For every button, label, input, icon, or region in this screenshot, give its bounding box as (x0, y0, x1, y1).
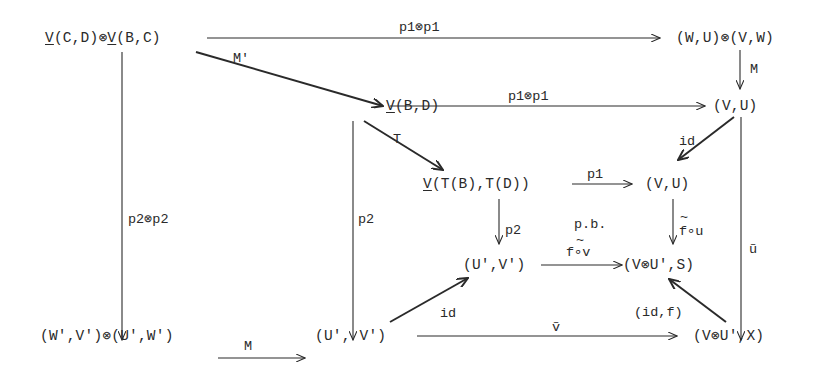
label-fu: f∘u (679, 224, 703, 239)
node-vu-top: (V,U) (713, 98, 758, 114)
node-vup-x: (V⊗U',X) (693, 328, 764, 344)
label-mid-p1p1: p1⊗p1 (508, 89, 549, 104)
node-upvp-bottom: (U', V') (315, 328, 386, 344)
arrow-id-bottom (390, 278, 468, 322)
label-pb: p.b. (574, 217, 606, 232)
node-vbd: V(B,D) (386, 98, 439, 114)
label-p1: p1 (587, 167, 603, 182)
arrow-T (364, 121, 443, 170)
label-id-f: (id,f) (634, 305, 683, 320)
label-M-right: M (750, 62, 758, 77)
label-M-bottom: M (244, 339, 252, 354)
label-top-p1p1: p1⊗p1 (399, 20, 440, 35)
commutative-diagram: V(C,D)⊗V(B,C) (W,U)⊗(V,W) V(B,D) (V,U) V… (0, 0, 836, 366)
node-vu-mid: (V,U) (645, 176, 690, 192)
node-vtb-td: V(T(B),T(D)) (423, 176, 530, 192)
label-v-tilde: ṽ (552, 320, 560, 335)
label-fv: f∘v (566, 245, 590, 260)
node-wu-tensor-vw: (W,U)⊗(V,W) (676, 30, 774, 46)
node-wpvp-tensor-upwp: (W',V')⊗(U',W') (40, 328, 174, 344)
label-p2-left: p2 (358, 212, 374, 227)
label-fu-tilde: ~ (680, 210, 688, 225)
label-M-prime: M' (233, 51, 249, 66)
label-p2-mid: p2 (505, 223, 521, 238)
node-vup-s: (V⊗U',S) (623, 257, 694, 273)
arrow-M-prime (196, 52, 383, 106)
label-id-bottom: id (440, 306, 456, 321)
label-u-tilde: ũ (749, 242, 757, 257)
label-p2p2: p2⊗p2 (128, 212, 169, 227)
label-T: T (393, 132, 401, 147)
node-upvp-mid: (U',V') (463, 257, 525, 273)
label-id-top: id (679, 134, 695, 149)
arrow-layer (0, 0, 836, 366)
node-vcd-tensor-vbc: V(C,D)⊗V(B,C) (45, 30, 161, 46)
